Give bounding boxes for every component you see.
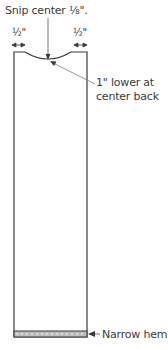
right-dimension-label: ½" — [73, 27, 87, 38]
center-back-note: 1" lower at center back — [96, 76, 159, 104]
narrow-hem-label: Narrow hem — [102, 328, 167, 341]
narrow-hem-band — [14, 331, 87, 337]
pattern-shape — [0, 0, 168, 350]
center-back-note-line1: 1" lower at — [96, 76, 159, 90]
right-dimension-arrows-icon — [74, 43, 87, 47]
center-back-leader-arrow-icon — [50, 61, 95, 84]
left-dimension-arrows-icon — [12, 43, 25, 47]
center-back-note-line2: center back — [96, 90, 159, 104]
pattern-diagram: Snip center ⅛". ½" ½" 1" lower at center… — [0, 0, 168, 350]
garment-outline — [14, 52, 87, 337]
hem-arrow-icon — [88, 331, 100, 337]
snip-center-arrow-icon — [46, 18, 51, 60]
left-dimension-label: ½" — [12, 27, 26, 38]
snip-center-label: Snip center ⅛". — [5, 4, 88, 17]
